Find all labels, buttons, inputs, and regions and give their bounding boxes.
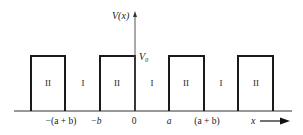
v-axis-arrow-icon (133, 11, 137, 17)
region-label: II (253, 78, 259, 88)
region-label: II (114, 78, 120, 88)
diagram-svg: V(x) V₀ x II I II I II I II −(a + b) −b … (0, 0, 303, 135)
y-axis-label: V(x) (112, 10, 130, 22)
region-label: I (220, 78, 223, 88)
region-label: II (45, 78, 51, 88)
x-tick-label: −b (90, 116, 101, 126)
region-labels: II I II I II I II (45, 78, 259, 88)
region-label: I (82, 78, 85, 88)
x-tick-label: 0 (132, 116, 137, 126)
barrier-height-label: V₀ (139, 51, 149, 62)
potential-diagram: V(x) V₀ x II I II I II I II −(a + b) −b … (0, 0, 303, 135)
x-tick-label: −(a + b) (46, 116, 77, 127)
region-label: II (183, 78, 189, 88)
x-tick-labels: −(a + b) −b 0 a (a + b) (46, 116, 220, 127)
x-axis-arrow-icon (280, 118, 290, 125)
x-tick-label: (a + b) (194, 116, 219, 127)
x-tick-label: a (167, 116, 172, 126)
region-label: I (151, 78, 154, 88)
x-axis-label: x (250, 115, 256, 126)
